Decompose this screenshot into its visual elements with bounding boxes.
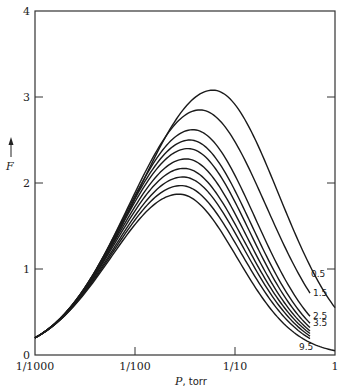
curve-label: 1.5 (313, 288, 327, 298)
y-tick-label: 2 (23, 177, 30, 190)
y-tick-label: 4 (23, 5, 30, 18)
curve-0-5 (35, 90, 335, 338)
y-axis-label-text: F (5, 160, 14, 173)
curve-6-5 (35, 168, 310, 337)
x-tick-label: 1/100 (119, 360, 151, 373)
y-tick-label: 3 (23, 91, 30, 104)
x-axis-label-unit: , torr (182, 376, 207, 387)
chart: 01234 1/10001/1001/101 0.51.52.53.59.5 F… (0, 0, 352, 392)
curve-label: 9.5 (299, 342, 313, 352)
x-axis-ticks: 1/10001/1001/101 (16, 347, 339, 373)
curve-8-5 (35, 186, 310, 339)
y-tick-label: 1 (23, 263, 30, 276)
y-axis-label: F (5, 137, 14, 173)
x-tick-label: 1/10 (223, 360, 248, 373)
x-tick-label: 1/1000 (16, 360, 55, 373)
x-tick-label: 1 (332, 360, 339, 373)
curves (35, 90, 335, 351)
curve-4-5 (35, 149, 310, 338)
x-axis-label: P, torr (174, 375, 208, 388)
y-axis-arrowhead-icon (9, 137, 14, 145)
curve-label: 0.5 (311, 269, 325, 279)
curve-9-5 (35, 194, 335, 351)
curve-label: 3.5 (313, 318, 327, 328)
curve-7-5 (35, 177, 310, 338)
